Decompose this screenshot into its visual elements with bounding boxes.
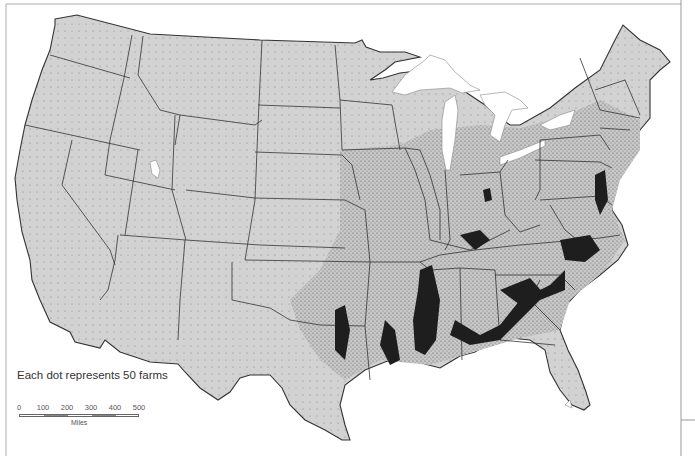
scale-units: Miles bbox=[71, 419, 87, 426]
scale-tick-100: 100 bbox=[37, 403, 50, 412]
scale-tick-0: 0 bbox=[17, 403, 21, 412]
lake-superior bbox=[392, 55, 480, 95]
scale-tick-300: 300 bbox=[85, 403, 98, 412]
scale-bar: 0 100 200 300 400 500 Miles bbox=[15, 403, 145, 433]
scale-tick-500: 500 bbox=[133, 403, 146, 412]
dot-density-map bbox=[0, 0, 695, 456]
scale-tick-400: 400 bbox=[109, 403, 122, 412]
legend-text: Each dot represents 50 farms bbox=[17, 369, 168, 381]
scale-tick-200: 200 bbox=[61, 403, 74, 412]
scale-bar-graphic bbox=[19, 414, 139, 417]
